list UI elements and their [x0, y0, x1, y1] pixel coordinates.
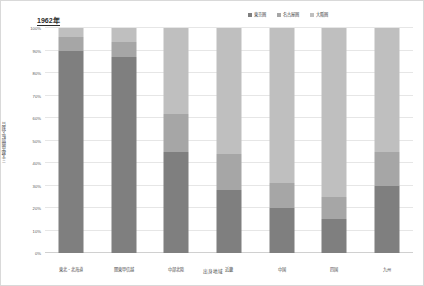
y-axis-tick-label: 90% — [33, 48, 41, 53]
bar-segment[interactable] — [164, 152, 189, 253]
bar-segment[interactable] — [269, 183, 294, 208]
stacked-bar[interactable] — [111, 28, 136, 253]
legend-swatch-tokyo — [248, 13, 252, 17]
bar-group — [45, 28, 413, 253]
bar-segment[interactable] — [217, 190, 242, 253]
bar-segment[interactable] — [111, 42, 136, 58]
y-axis-tick-label: 30% — [33, 183, 41, 188]
stacked-bar[interactable] — [59, 28, 84, 253]
bar-segment[interactable] — [269, 28, 294, 183]
y-axis-tick-label: 40% — [33, 161, 41, 166]
bar-segment[interactable] — [59, 51, 84, 254]
bar-segment[interactable] — [111, 57, 136, 253]
legend-swatch-nagoya — [277, 13, 281, 17]
bar-slot — [203, 28, 256, 253]
bar-segment[interactable] — [269, 208, 294, 253]
bar-segment[interactable] — [164, 28, 189, 114]
bar-slot — [150, 28, 203, 253]
bar-slot — [255, 28, 308, 253]
legend-swatch-osaka — [310, 13, 314, 17]
stacked-bar[interactable] — [322, 28, 347, 253]
y-axis-tick-label: 10% — [33, 228, 41, 233]
y-axis-tick-label: 60% — [33, 116, 41, 121]
bar-slot — [98, 28, 151, 253]
y-axis-tick-label: 0% — [35, 251, 41, 256]
bar-segment[interactable] — [322, 219, 347, 253]
bar-segment[interactable] — [374, 152, 399, 186]
legend-label-osaka: 大阪圏 — [316, 12, 328, 17]
stacked-bar[interactable] — [217, 28, 242, 253]
x-axis-title: 出身地域 — [1, 269, 424, 275]
bar-slot — [308, 28, 361, 253]
chart-legend: 東京圏 名古屋圏 大阪圏 — [1, 12, 424, 17]
y-axis-tick-label: 100% — [30, 26, 41, 31]
bar-segment[interactable] — [111, 28, 136, 42]
y-axis-tick-label: 80% — [33, 71, 41, 76]
bar-segment[interactable] — [322, 197, 347, 220]
bar-segment[interactable] — [217, 28, 242, 154]
bar-segment[interactable] — [59, 37, 84, 51]
y-axis-tick-label: 20% — [33, 206, 41, 211]
stacked-bar-chart: 東京圏 名古屋圏 大阪圏 1962年 三大都市圏別転入割合 100%90%80%… — [0, 0, 424, 286]
bar-slot — [360, 28, 413, 253]
bar-segment[interactable] — [59, 28, 84, 37]
y-axis-title: 三大都市圏別転入割合 — [2, 123, 8, 163]
legend-item-osaka[interactable]: 大阪圏 — [310, 12, 328, 17]
stacked-bar[interactable] — [164, 28, 189, 253]
stacked-bar[interactable] — [374, 28, 399, 253]
bar-segment[interactable] — [374, 186, 399, 254]
legend-item-tokyo[interactable]: 東京圏 — [248, 12, 266, 17]
legend-item-nagoya[interactable]: 名古屋圏 — [277, 12, 299, 17]
bar-segment[interactable] — [217, 154, 242, 190]
legend-label-nagoya: 名古屋圏 — [283, 12, 299, 17]
bar-segment[interactable] — [322, 28, 347, 197]
stacked-bar[interactable] — [269, 28, 294, 253]
bar-slot — [45, 28, 98, 253]
chart-title: 1962年 — [37, 16, 60, 26]
plot-area — [45, 28, 413, 253]
bar-segment[interactable] — [374, 28, 399, 152]
bar-segment[interactable] — [164, 114, 189, 152]
legend-label-tokyo: 東京圏 — [254, 12, 266, 17]
y-axis-tick-label: 50% — [33, 138, 41, 143]
y-axis-ticks: 100%90%80%70%60%50%40%30%20%10%0% — [17, 28, 43, 253]
y-axis-tick-label: 70% — [33, 93, 41, 98]
